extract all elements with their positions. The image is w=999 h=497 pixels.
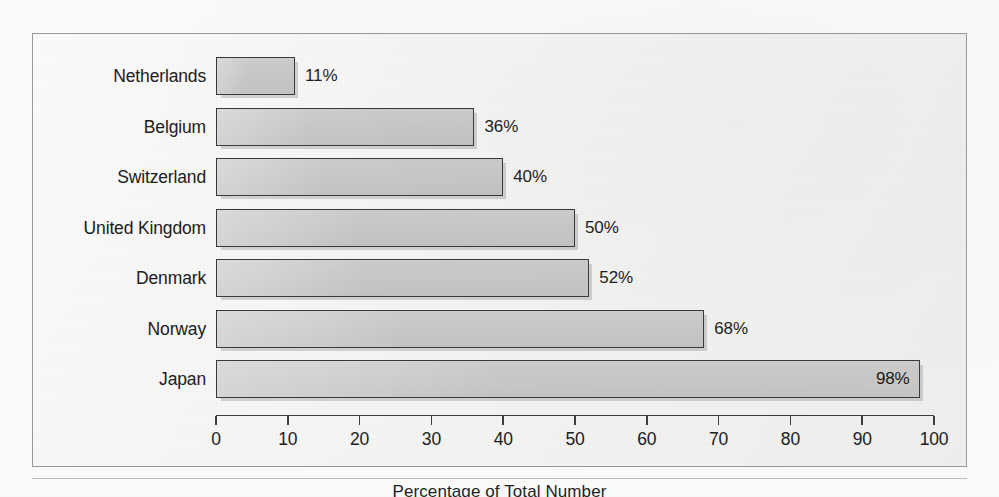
x-axis-tick	[933, 416, 935, 425]
bar	[216, 57, 295, 95]
x-axis-tick-label: 10	[263, 429, 313, 450]
category-label: United Kingdom	[39, 209, 214, 247]
x-axis-tick-label: 40	[478, 429, 528, 450]
category-label-text: Denmark	[39, 259, 206, 297]
x-axis-tick	[502, 416, 504, 425]
x-axis-tick	[574, 416, 576, 425]
bar-value-label: 40%	[513, 158, 547, 196]
category-label-text: Switzerland	[39, 158, 206, 196]
x-axis-tick-label: 60	[622, 429, 672, 450]
category-label: Belgium	[39, 108, 214, 146]
x-axis-tick-label: 100	[909, 429, 959, 450]
bar	[216, 108, 474, 146]
x-axis-tick	[431, 416, 433, 425]
bar	[216, 158, 503, 196]
x-axis-tick	[287, 416, 289, 425]
figure-caption: Percentage of Total Number	[0, 482, 999, 497]
category-label: Norway	[39, 310, 214, 348]
bar	[216, 209, 575, 247]
bar	[216, 259, 589, 297]
x-axis-tick	[646, 416, 648, 425]
category-label-text: Netherlands	[39, 57, 206, 95]
x-axis-tick-label: 50	[550, 429, 600, 450]
category-label-text: Japan	[39, 360, 206, 398]
category-label: Denmark	[39, 259, 214, 297]
x-axis-tick-label: 80	[765, 429, 815, 450]
bar-value-label: 36%	[484, 108, 518, 146]
bar-value-label: 50%	[585, 209, 619, 247]
x-axis-tick-label: 0	[191, 429, 241, 450]
page-rule	[32, 478, 967, 479]
bar	[216, 310, 704, 348]
category-label: Netherlands	[39, 57, 214, 95]
x-axis-tick	[718, 416, 720, 425]
category-label-text: Belgium	[39, 108, 206, 146]
category-label: Japan	[39, 360, 214, 398]
x-axis-tick-label: 90	[837, 429, 887, 450]
x-axis-tick-label: 30	[406, 429, 456, 450]
bar-value-label: 11%	[305, 57, 337, 95]
x-axis-tick-label: 20	[335, 429, 385, 450]
bar-value-label: 98%	[864, 360, 910, 398]
bar-value-label: 68%	[714, 310, 748, 348]
category-label-text: United Kingdom	[39, 209, 206, 247]
x-axis-tick	[861, 416, 863, 425]
x-axis-tick	[215, 416, 217, 425]
x-axis-tick	[359, 416, 361, 425]
x-axis-tick-label: 70	[694, 429, 744, 450]
bar-value-label: 52%	[599, 259, 633, 297]
x-axis-tick	[790, 416, 792, 425]
category-label: Switzerland	[39, 158, 214, 196]
chart-page: the interior of the structure remains un…	[0, 0, 999, 497]
category-label-text: Norway	[39, 310, 206, 348]
plot-area: Netherlands11%Belgium36%Switzerland40%Un…	[33, 34, 966, 466]
chart-frame: Netherlands11%Belgium36%Switzerland40%Un…	[32, 33, 967, 467]
bar	[216, 360, 920, 398]
